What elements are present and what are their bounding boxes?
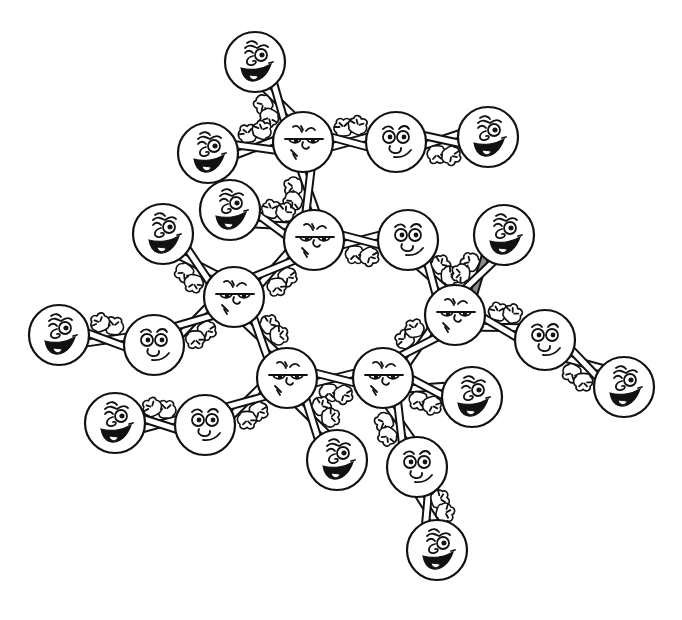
head-circle bbox=[378, 210, 438, 270]
bond-arm bbox=[235, 118, 276, 155]
grin-face-character bbox=[29, 305, 89, 365]
hand-icon bbox=[237, 411, 256, 429]
head-circle bbox=[515, 310, 575, 370]
calm-face-character bbox=[515, 310, 575, 370]
head-circle bbox=[124, 315, 184, 375]
grin-face-character bbox=[307, 430, 367, 490]
bond-arm bbox=[86, 311, 126, 347]
grin-face-character bbox=[442, 367, 502, 427]
hand-icon bbox=[573, 373, 593, 391]
hand-icon bbox=[452, 264, 470, 284]
grin-face-character bbox=[200, 180, 260, 240]
grumpy-face-character bbox=[353, 348, 413, 408]
grumpy-face-character bbox=[273, 112, 333, 172]
grumpy-face-character bbox=[425, 285, 485, 345]
grin-face-character bbox=[407, 520, 467, 580]
grin-face-character bbox=[594, 357, 654, 417]
molecule-illustration bbox=[0, 0, 682, 620]
grin-face-character bbox=[458, 107, 518, 167]
grin-face-character bbox=[225, 32, 285, 92]
head-circle bbox=[175, 395, 235, 455]
calm-face-character bbox=[387, 437, 447, 497]
calm-face-character bbox=[124, 315, 184, 375]
grumpy-face-character bbox=[257, 348, 317, 408]
grin-face-character bbox=[474, 205, 534, 265]
hand-icon bbox=[186, 331, 206, 349]
head-circle bbox=[366, 112, 426, 172]
hand-icon bbox=[270, 325, 288, 345]
hand-icon bbox=[266, 277, 287, 296]
characters-layer bbox=[29, 32, 654, 580]
hand-icon bbox=[322, 408, 340, 428]
grin-face-character bbox=[133, 204, 193, 264]
grumpy-face-character bbox=[204, 267, 264, 327]
bond-arm bbox=[331, 113, 371, 147]
bond-arm bbox=[342, 235, 382, 269]
grumpy-face-character bbox=[284, 210, 344, 270]
calm-face-character bbox=[366, 112, 426, 172]
head-circle bbox=[387, 437, 447, 497]
calm-face-character bbox=[175, 395, 235, 455]
grin-face-character bbox=[85, 393, 145, 453]
calm-face-character bbox=[378, 210, 438, 270]
grin-face-character bbox=[178, 123, 238, 183]
